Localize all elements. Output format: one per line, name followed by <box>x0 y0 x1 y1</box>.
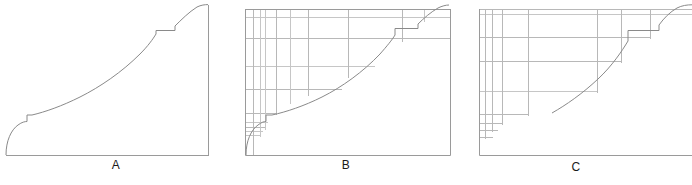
panel-b-label: B <box>232 158 460 172</box>
panel-c: C <box>460 0 692 185</box>
panel-b: B <box>232 0 460 185</box>
panel-c-label: C <box>460 160 692 174</box>
panel-c-plot <box>460 0 692 162</box>
figure-root: A <box>0 0 692 185</box>
panel-c-gridlines <box>480 10 692 140</box>
panel-a-label: A <box>0 158 232 172</box>
panel-b-plot <box>232 0 460 160</box>
panel-a: A <box>0 0 232 185</box>
panel-a-curve <box>6 5 208 155</box>
panel-a-plot <box>0 0 232 160</box>
